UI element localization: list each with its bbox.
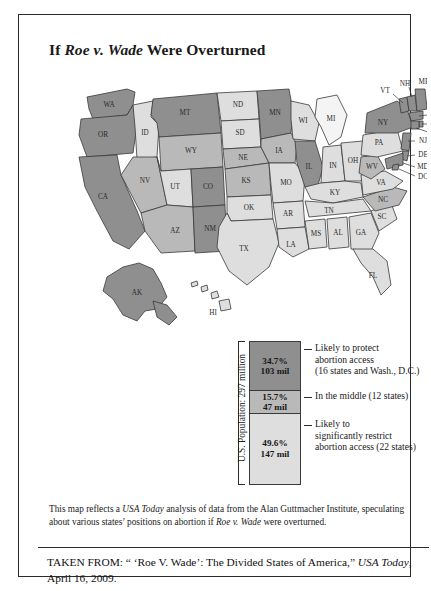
- map-label-MI: MI: [327, 115, 336, 123]
- map-label-TX: TX: [239, 245, 249, 253]
- legend-axis-label: U.S. Population: 297 million: [237, 333, 247, 483]
- legend-population-0: 103 mil: [261, 366, 290, 376]
- map-label-LA: LA: [286, 241, 296, 249]
- map-label-AZ: AZ: [170, 227, 180, 235]
- map-label-CO: CO: [203, 183, 213, 191]
- map-label-NV: NV: [140, 177, 151, 185]
- legend-swatch-middle[interactable]: 15.7% 47 mil: [250, 391, 300, 413]
- map-label-GA: GA: [356, 229, 367, 237]
- state-HI-3[interactable]: [211, 291, 219, 299]
- map-label-MT: MT: [180, 109, 191, 117]
- legend-label-middle: In the middle (12 states): [315, 390, 408, 402]
- map-label-WV: WV: [366, 163, 379, 171]
- state-ME[interactable]: [415, 89, 427, 111]
- map-label-DC: DC: [418, 173, 427, 181]
- state-AK-tail[interactable]: [153, 301, 177, 325]
- legend-label-restrict-line-0: Likely to: [315, 418, 416, 430]
- map-label-PA: PA: [375, 139, 384, 147]
- legend-percent-2: 49.6%: [262, 438, 287, 448]
- map-label-HI: HI: [209, 309, 217, 317]
- map-label-VT: VT: [380, 87, 390, 95]
- map-label-WY: WY: [185, 147, 198, 155]
- state-DC[interactable]: [392, 164, 399, 170]
- caption-part-1: This map reflects a: [49, 504, 122, 514]
- map-label-ME: ME: [419, 78, 427, 86]
- map-label-MN: MN: [269, 109, 281, 117]
- legend-label-protect-line-2: (16 states and Wash., D.C.): [315, 365, 420, 377]
- legend-label-protect-line-1: abortion access: [315, 354, 420, 366]
- map-label-AK: AK: [132, 289, 143, 297]
- legend-percent-1: 15.7%: [262, 392, 287, 402]
- caption-italic-usa-today: USA Today: [122, 504, 164, 514]
- map-label-MO: MO: [280, 179, 292, 187]
- map-label-MD: MD: [417, 163, 427, 171]
- legend-label-protect: Likely to protect abortion access (16 st…: [315, 342, 420, 377]
- legend-label-protect-line-0: Likely to protect: [315, 342, 420, 354]
- legend-population-2: 147 mil: [261, 449, 290, 459]
- map-label-IL: IL: [306, 163, 313, 171]
- map-label-DE: DE: [418, 151, 427, 159]
- state-CT[interactable]: [411, 121, 419, 129]
- legend-connector-2: [304, 425, 312, 426]
- map-label-NY: NY: [378, 119, 389, 127]
- legend-swatch-protect[interactable]: 34.7% 103 mil: [250, 342, 300, 391]
- source-part-1: TAKEN FROM: “ ‘Roe V. Wade’: The Divided…: [47, 556, 358, 568]
- title-suffix: Were Overturned: [143, 41, 265, 58]
- map-label-IN: IN: [329, 162, 337, 170]
- legend-population-1: 47 mil: [263, 402, 287, 412]
- source-attribution: TAKEN FROM: “ ‘Roe V. Wade’: The Divided…: [47, 555, 425, 586]
- map-label-WA: WA: [103, 101, 115, 109]
- caption-italic-case-name: Roe v. Wade: [216, 517, 261, 527]
- map-label-AL: AL: [333, 229, 343, 237]
- figure-caption: This map reflects a USA Today analysis o…: [49, 503, 419, 530]
- map-label-OH: OH: [348, 157, 358, 165]
- map-label-FL: FL: [369, 272, 377, 280]
- map-label-NE: NE: [238, 154, 248, 162]
- legend-percent-0: 34.7%: [262, 356, 287, 366]
- state-HI-2[interactable]: [201, 285, 208, 292]
- state-AZ[interactable]: [141, 205, 195, 253]
- map-label-SC: SC: [378, 213, 387, 221]
- title-prefix: If: [49, 41, 64, 58]
- legend-swatch-restrict[interactable]: 49.6% 147 mil: [250, 414, 300, 484]
- map-label-ID: ID: [141, 129, 149, 137]
- legend-connector-0: [304, 349, 312, 350]
- map-label-TN: TN: [324, 207, 334, 215]
- source-italic-usa-today: USA Today: [358, 556, 409, 568]
- map-label-ND: ND: [233, 101, 243, 109]
- legend-label-restrict: Likely to significantly restrict abortio…: [315, 418, 416, 453]
- map-label-SD: SD: [235, 129, 244, 137]
- map-label-OK: OK: [244, 204, 255, 212]
- map-label-MS: MS: [311, 230, 321, 238]
- map-label-IA: IA: [275, 147, 283, 155]
- title-case-name: Roe v. Wade: [64, 41, 143, 58]
- caption-divider: [38, 547, 429, 548]
- map-label-KS: KS: [241, 177, 250, 185]
- map-label-NM: NM: [204, 225, 216, 233]
- legend-label-restrict-line-2: abortion access (22 states): [315, 441, 416, 453]
- legend-label-middle-line-0: In the middle (12 states): [315, 390, 408, 402]
- figure-frame: If Roe v. Wade Were Overturned: [18, 14, 411, 577]
- map-label-KY: KY: [330, 189, 341, 197]
- map-label-NH: NH: [400, 80, 410, 88]
- map-label-VA: VA: [376, 179, 386, 187]
- us-choropleth-map: WA OR CA ID NV MT WY UT CO AZ NM ND SD N…: [41, 71, 427, 341]
- legend-connector-1: [304, 397, 312, 398]
- page-title: If Roe v. Wade Were Overturned: [49, 41, 266, 59]
- caption-part-3: were overturned.: [261, 517, 326, 527]
- state-HI-4[interactable]: [219, 299, 231, 311]
- map-label-WI: WI: [298, 117, 308, 125]
- map-label-UT: UT: [170, 183, 180, 191]
- legend-bar: 34.7% 103 mil 15.7% 47 mil 49.6% 147 mil: [249, 341, 301, 485]
- map-legend: U.S. Population: 297 million 34.7% 103 m…: [225, 337, 425, 489]
- map-label-AR: AR: [283, 210, 293, 218]
- state-NJ[interactable]: [401, 133, 411, 151]
- legend-axis: U.S. Population: 297 million: [225, 337, 243, 489]
- map-label-OR: OR: [98, 131, 108, 139]
- map-label-CA: CA: [98, 193, 109, 201]
- map-label-NJ: NJ: [419, 137, 427, 145]
- state-HI-1[interactable]: [191, 281, 198, 287]
- legend-label-restrict-line-1: significantly restrict: [315, 430, 416, 442]
- map-label-NC: NC: [378, 196, 388, 204]
